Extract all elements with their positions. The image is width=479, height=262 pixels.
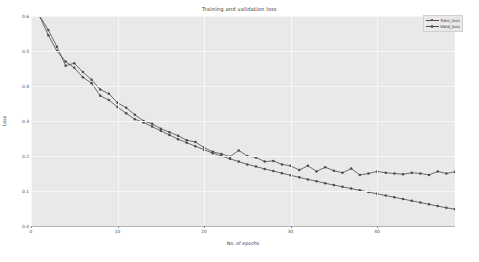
data-point: [108, 99, 111, 102]
data-point: [298, 176, 301, 179]
x-tick-mark: [31, 226, 32, 228]
data-point: [454, 171, 455, 174]
gridline-horizontal: [31, 16, 455, 17]
data-point: [359, 174, 362, 177]
data-point: [90, 82, 93, 85]
data-point: [324, 182, 327, 185]
data-point: [134, 113, 137, 116]
data-point: [410, 200, 413, 203]
data-point: [246, 163, 249, 166]
data-point: [263, 168, 266, 171]
gridline-vertical: [204, 16, 205, 226]
gridline-vertical: [31, 16, 32, 226]
data-point: [419, 201, 422, 204]
gridline-horizontal: [31, 51, 455, 52]
legend-label: Valid_loss: [440, 24, 460, 29]
data-point: [272, 160, 275, 163]
x-tick-mark: [377, 226, 378, 228]
data-point: [393, 196, 396, 199]
data-point: [272, 170, 275, 173]
data-point: [151, 123, 154, 126]
data-point: [419, 172, 422, 175]
data-point: [350, 167, 353, 170]
data-point: [350, 187, 353, 190]
data-point: [436, 205, 439, 208]
data-point: [151, 125, 154, 128]
data-point: [56, 46, 59, 49]
data-point: [47, 29, 50, 32]
data-point: [194, 145, 197, 148]
data-point: [64, 60, 67, 63]
data-point: [64, 64, 67, 67]
legend-marker-icon: [426, 18, 439, 23]
data-point: [281, 172, 284, 175]
chart-legend[interactable]: Train_lossValid_loss: [423, 15, 463, 32]
data-point: [385, 194, 388, 197]
data-point: [333, 184, 336, 187]
data-point: [428, 174, 431, 177]
y-tick-label: 0.6: [3, 14, 29, 19]
data-point: [393, 172, 396, 175]
data-point: [73, 67, 76, 70]
y-tick-label: 0.5: [3, 49, 29, 54]
data-point: [436, 170, 439, 173]
data-point: [168, 131, 171, 134]
data-point: [324, 166, 327, 169]
legend-marker-icon: [426, 24, 439, 29]
data-point: [402, 173, 405, 176]
data-point: [315, 180, 318, 183]
y-tick-label: 0.2: [3, 154, 29, 159]
data-point: [454, 208, 455, 211]
x-tick-label: 40: [374, 229, 380, 234]
series-line: [40, 16, 455, 209]
x-tick-label: 30: [288, 229, 294, 234]
data-point: [220, 153, 223, 156]
data-point: [263, 160, 266, 163]
x-tick-label: 20: [201, 229, 207, 234]
y-tick-label: 0.0: [3, 224, 29, 229]
gridline-vertical: [118, 16, 119, 226]
data-point: [307, 178, 310, 181]
data-point: [99, 95, 102, 98]
data-point: [82, 76, 85, 79]
x-tick-mark: [291, 226, 292, 228]
gridline-horizontal: [31, 156, 455, 157]
data-point: [82, 71, 85, 74]
legend-label: Train_loss: [440, 18, 460, 23]
data-point: [99, 88, 102, 91]
x-tick-label: 0: [30, 229, 33, 234]
y-tick-label: 0.4: [3, 84, 29, 89]
data-point: [410, 172, 413, 175]
data-point: [47, 34, 50, 37]
data-point: [237, 149, 240, 152]
plot-area: [31, 16, 455, 226]
data-point: [402, 198, 405, 201]
x-tick-mark: [204, 226, 205, 228]
legend-item[interactable]: Valid_loss: [426, 24, 460, 29]
data-point: [168, 134, 171, 137]
data-point: [211, 151, 214, 154]
data-point: [333, 169, 336, 172]
data-point: [281, 163, 284, 166]
data-point: [160, 127, 163, 130]
x-axis-ticks: 010203040: [31, 226, 455, 240]
series-line: [40, 16, 455, 175]
x-tick-label: 10: [115, 229, 121, 234]
legend-item[interactable]: Train_loss: [426, 18, 460, 23]
data-point: [428, 203, 431, 206]
data-point: [237, 160, 240, 163]
data-point: [186, 141, 189, 144]
data-point: [194, 141, 197, 144]
series-train-loss: [38, 16, 455, 210]
data-point: [445, 207, 448, 210]
data-point: [341, 172, 344, 175]
data-point: [298, 169, 301, 172]
chart-title: Training and validation loss: [0, 6, 479, 12]
y-tick-label: 0.3: [3, 119, 29, 124]
gridline-horizontal: [31, 191, 455, 192]
gridline-vertical: [377, 16, 378, 226]
data-point: [385, 172, 388, 175]
data-point: [367, 172, 370, 175]
data-point: [108, 92, 111, 95]
data-point: [73, 62, 76, 65]
